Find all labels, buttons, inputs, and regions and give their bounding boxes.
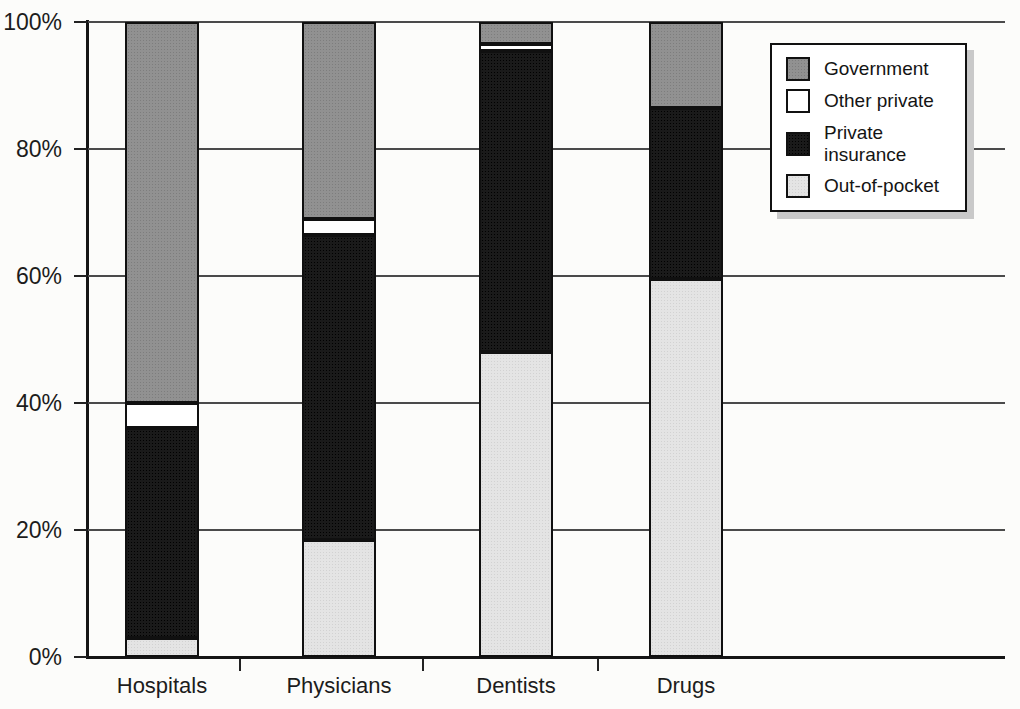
y-axis-label-100: 100%	[0, 10, 62, 34]
bar-segment-hospitals-government	[125, 22, 199, 403]
bar-segment-hospitals-other-private	[125, 403, 199, 428]
legend-label-out-of-pocket: Out-of-pocket	[824, 175, 939, 197]
bar-segment-hospitals-private-insurance	[125, 428, 199, 638]
x-axis-label-physicians: Physicians	[249, 673, 429, 699]
x-axis-label-drugs: Drugs	[596, 673, 776, 699]
bar-segment-dentists-private-insurance	[479, 51, 553, 353]
figure: 0%20%40%60%80%100% HospitalsPhysiciansDe…	[0, 0, 1020, 709]
y-axis-label-0: 0%	[0, 645, 62, 669]
y-axis-label-40: 40%	[0, 391, 62, 415]
legend-label-government: Government	[824, 58, 929, 80]
bar-segment-drugs-out-of-pocket	[649, 279, 723, 657]
legend-box: GovernmentOther privatePrivate insurance…	[770, 43, 967, 212]
legend-swatch-private-insurance	[786, 132, 810, 156]
bar-segment-physicians-government	[302, 22, 376, 219]
y-axis-label-20: 20%	[0, 518, 62, 542]
legend-label-other-private: Other private	[824, 90, 934, 112]
x-tick-3	[597, 659, 599, 671]
legend-swatch-government	[786, 57, 810, 81]
y-tick-20	[74, 529, 87, 531]
legend-item-other-private: Other private	[786, 89, 965, 113]
bar-segment-hospitals-out-of-pocket	[125, 638, 199, 657]
bar-segment-drugs-government	[649, 22, 723, 108]
x-tick-1	[239, 659, 241, 671]
legend-item-out-of-pocket: Out-of-pocket	[786, 174, 965, 198]
y-tick-40	[74, 402, 87, 404]
y-axis-line	[86, 20, 89, 659]
y-tick-60	[74, 275, 87, 277]
legend-swatch-other-private	[786, 89, 810, 113]
bar-physicians	[302, 22, 376, 657]
legend-item-private-insurance: Private insurance	[786, 122, 965, 166]
x-tick-2	[422, 659, 424, 671]
x-axis-label-hospitals: Hospitals	[72, 673, 252, 699]
y-axis-label-80: 80%	[0, 137, 62, 161]
bar-segment-physicians-out-of-pocket	[302, 540, 376, 657]
bar-drugs	[649, 22, 723, 657]
bar-segment-dentists-out-of-pocket	[479, 352, 553, 657]
bar-hospitals	[125, 22, 199, 657]
y-tick-80	[74, 148, 87, 150]
bar-segment-physicians-private-insurance	[302, 235, 376, 540]
legend-swatch-out-of-pocket	[786, 174, 810, 198]
y-tick-100	[74, 21, 87, 23]
bar-dentists	[479, 22, 553, 657]
legend-label-private-insurance: Private insurance	[824, 122, 965, 166]
bar-segment-drugs-private-insurance	[649, 108, 723, 279]
y-tick-0	[74, 656, 87, 658]
y-axis-label-60: 60%	[0, 264, 62, 288]
legend-item-government: Government	[786, 57, 965, 81]
bar-segment-physicians-other-private	[302, 219, 376, 235]
x-axis-label-dentists: Dentists	[426, 673, 606, 699]
bar-segment-dentists-government	[479, 22, 553, 44]
